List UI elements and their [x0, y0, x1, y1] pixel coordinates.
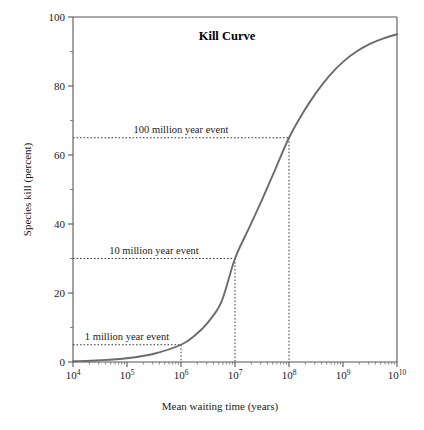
axes-layer — [68, 17, 397, 367]
x-tick-label: 105 — [120, 368, 135, 381]
x-tick-label: 109 — [336, 368, 351, 381]
x-tick-label: 107 — [228, 368, 243, 381]
x-tick-label: 106 — [174, 368, 189, 381]
y-axis-title: Species kill (percent) — [21, 142, 34, 236]
x-tick-exponent: 4 — [77, 368, 81, 377]
y-tick-label: 100 — [49, 11, 66, 23]
x-tick-exponent: 10 — [399, 368, 407, 377]
annotation-label: 1 million year event — [85, 331, 169, 342]
chart-canvas: 02040608010010410510610710810910101 mill… — [0, 0, 424, 430]
annotation-label: 100 million year event — [134, 124, 229, 135]
x-tick-exponent: 8 — [293, 368, 297, 377]
chart-title: Kill Curve — [199, 29, 256, 43]
y-tick-label: 40 — [54, 218, 66, 230]
y-tick-label: 60 — [54, 149, 66, 161]
y-tick-label: 0 — [60, 356, 66, 368]
y-tick-label: 20 — [54, 287, 66, 299]
x-tick-exponent: 5 — [131, 368, 135, 377]
x-tick-label: 104 — [66, 368, 81, 381]
x-tick-label: 108 — [282, 368, 297, 381]
y-tick-label: 80 — [54, 80, 66, 92]
x-tick-exponent: 9 — [347, 368, 351, 377]
x-axis-title: Mean waiting time (years) — [162, 400, 279, 413]
annotation-label: 10 million year event — [109, 245, 199, 256]
x-tick-exponent: 7 — [239, 368, 243, 377]
x-tick-exponent: 6 — [185, 368, 189, 377]
labels-layer: 02040608010010410510610710810910101 mill… — [21, 11, 407, 413]
x-tick-label: 1010 — [388, 368, 407, 381]
kill-curve-figure: 02040608010010410510610710810910101 mill… — [0, 0, 424, 430]
